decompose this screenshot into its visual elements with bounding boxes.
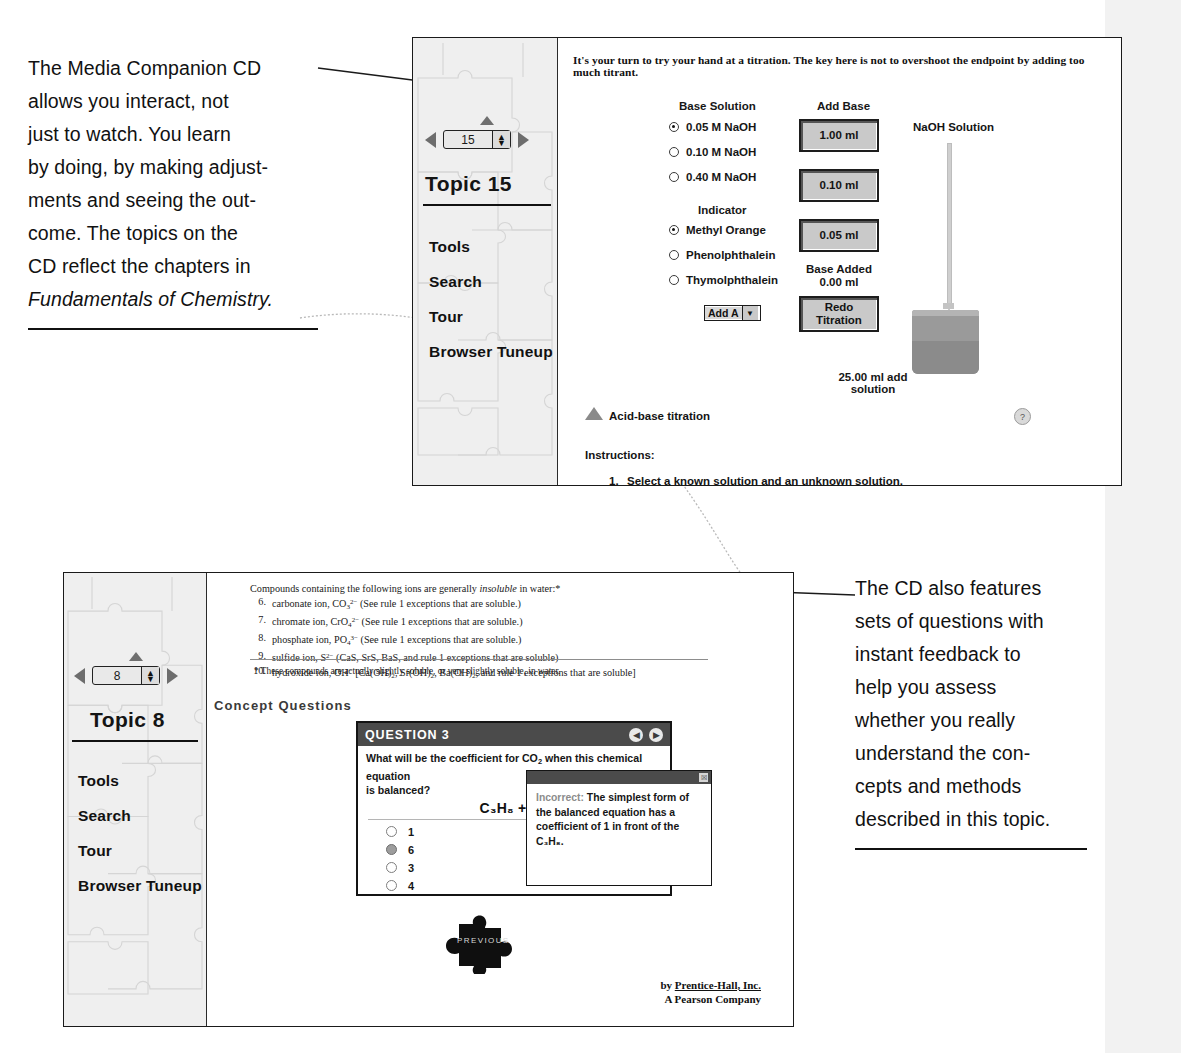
indicator-option-2[interactable]: Thymolphthalein <box>669 274 778 286</box>
solubility-lead: Compounds containing the following ions … <box>250 583 710 595</box>
anno-right-line-6: cepts and methods <box>855 770 1087 803</box>
radio-icon[interactable] <box>669 147 679 157</box>
instruction-1-number: 1. <box>609 475 619 487</box>
titration-app-window: 15 ▲▼ Topic 15 Tools Search Tour Browser… <box>412 37 1122 486</box>
top-sidebar: 15 ▲▼ Topic 15 Tools Search Tour Browser… <box>413 38 558 485</box>
anno-right-line-7: described in this topic. <box>855 803 1087 836</box>
chevron-down-icon[interactable]: ▼ <box>742 306 758 320</box>
feedback-result: Incorrect: <box>536 792 584 803</box>
top-topic-nav[interactable]: 15 ▲▼ <box>425 130 529 149</box>
item-number: 7. <box>250 614 266 631</box>
prev-topic-arrow-icon[interactable] <box>74 668 85 684</box>
top-topic-rule <box>423 204 551 206</box>
topic-spinner-value[interactable]: 15 <box>444 133 492 147</box>
radio-icon[interactable] <box>669 172 679 182</box>
list-item: 6.carbonate ion, CO32− (See rule 1 excep… <box>250 596 710 613</box>
topic-spinner[interactable]: 15 ▲▼ <box>443 130 511 149</box>
base-option-1[interactable]: 0.10 M NaOH <box>669 146 756 158</box>
topic-spinner-stepper-icon[interactable]: ▲▼ <box>141 667 159 684</box>
feedback-popup-titlebar: ☒ <box>527 771 711 784</box>
add-acid-dropdown[interactable]: Add A ▼ <box>704 305 761 321</box>
publisher-byline: by Prentice-Hall, Inc. A Pearson Company <box>660 978 761 1006</box>
question-nav[interactable]: ◀ ▶ <box>629 728 663 742</box>
close-icon[interactable]: ☒ <box>699 773 708 782</box>
triangle-up-icon[interactable] <box>129 652 143 661</box>
instruction-1-text: Select a known solution and an unknown s… <box>627 475 903 487</box>
byline-publisher[interactable]: Prentice-Hall, Inc. <box>675 979 761 991</box>
list-item: 8.phosphate ion, PO43− (See rule 1 excep… <box>250 632 710 649</box>
prev-question-icon[interactable]: ◀ <box>629 728 643 742</box>
item-number: 8. <box>250 632 266 649</box>
sidebar-item-browser-tuneup[interactable]: Browser Tuneup <box>429 343 553 361</box>
bottom-topic-nav[interactable]: 8 ▲▼ <box>74 666 178 685</box>
redo-titration-button[interactable]: Redo Titration <box>799 296 879 332</box>
redo-titration-line2: Titration <box>816 314 862 327</box>
base-option-1-label: 0.10 M NaOH <box>686 146 756 158</box>
beaker-icon <box>912 310 979 374</box>
anno-left-line-5: come. The topics on the <box>28 217 318 250</box>
add-base-1ml-button[interactable]: 1.00 ml <box>799 119 879 152</box>
sidebar-item-search[interactable]: Search <box>429 273 482 291</box>
solubility-lead-b: in water:* <box>517 583 561 594</box>
sidebar-item-tools[interactable]: Tools <box>78 772 119 790</box>
feedback-popup: ☒ Incorrect: The simplest form of the ba… <box>526 770 712 886</box>
radio-icon[interactable] <box>669 275 679 285</box>
anno-left-line-1: allows you interact, not <box>28 85 318 118</box>
add-base-005ml-button[interactable]: 0.05 ml <box>799 219 879 252</box>
radio-icon[interactable] <box>386 826 397 837</box>
sidebar-item-tools[interactable]: Tools <box>429 238 470 256</box>
base-option-0[interactable]: 0.05 M NaOH <box>669 121 756 133</box>
base-option-2[interactable]: 0.40 M NaOH <box>669 171 756 183</box>
previous-puzzle-button[interactable]: PREVIOUS <box>441 910 523 974</box>
triangle-up-icon[interactable] <box>480 116 494 125</box>
item-number: 9. <box>250 650 266 665</box>
topic-spinner-stepper-icon[interactable]: ▲▼ <box>492 131 510 148</box>
solubility-footnote: * These compounds are actually slightly … <box>254 666 714 676</box>
anno-right-line-1: sets of questions with <box>855 605 1087 638</box>
radio-icon[interactable] <box>386 862 397 873</box>
sidebar-item-tour[interactable]: Tour <box>429 308 463 326</box>
list-item: 9.sulfide ion, S2− (CaS, SrS, BaS, and r… <box>250 650 710 665</box>
anno-left-line-6: CD reflect the chapters in <box>28 250 318 283</box>
indicator-option-1[interactable]: Phenolphthalein <box>669 249 775 261</box>
byline-company: A Pearson Company <box>660 992 761 1006</box>
top-topic-title: Topic 15 <box>425 172 512 196</box>
radio-icon[interactable] <box>669 250 679 260</box>
topic-spinner[interactable]: 8 ▲▼ <box>92 666 160 685</box>
annotation-right: The CD also features sets of questions w… <box>855 572 1087 850</box>
anno-left-line-2: just to watch. You learn <box>28 118 318 151</box>
base-added-label: Base Added <box>799 263 879 276</box>
indicator-heading: Indicator <box>698 204 747 216</box>
concept-questions-app-window: 8 ▲▼ Topic 8 Tools Search Tour Browser T… <box>63 572 794 1027</box>
radio-icon[interactable] <box>386 844 397 855</box>
add-base-heading: Add Base <box>817 100 870 112</box>
anno-left-book-title: Fundamentals of Chemistry. <box>28 283 318 316</box>
prev-topic-arrow-icon[interactable] <box>425 132 436 148</box>
radio-icon[interactable] <box>669 225 679 235</box>
answer-option-3-label: 4 <box>408 880 414 892</box>
question-number-label: QUESTION 3 <box>365 728 450 742</box>
anno-right-rule <box>855 848 1087 850</box>
anno-right-line-5: understand the con- <box>855 737 1087 770</box>
next-topic-arrow-icon[interactable] <box>518 132 529 148</box>
solubility-lead-a: Compounds containing the following ions … <box>250 583 479 594</box>
topic-spinner-value[interactable]: 8 <box>93 669 141 683</box>
add-base-010ml-button[interactable]: 0.10 ml <box>799 169 879 202</box>
item-text: phosphate ion, PO43− (See rule 1 excepti… <box>272 632 521 649</box>
anno-left-line-0: The Media Companion CD <box>28 52 318 85</box>
radio-icon[interactable] <box>669 122 679 132</box>
indicator-option-0[interactable]: Methyl Orange <box>669 224 766 236</box>
titration-intro-text: It's your turn to try your hand at a tit… <box>573 54 1103 78</box>
sidebar-item-tour[interactable]: Tour <box>78 842 112 860</box>
question-header-bar: QUESTION 3 ◀ ▶ <box>358 723 670 746</box>
next-topic-arrow-icon[interactable] <box>167 668 178 684</box>
radio-icon[interactable] <box>386 880 397 891</box>
beaker-liquid <box>912 341 979 374</box>
help-icon[interactable]: ? <box>1014 408 1031 425</box>
bottom-topic-rule <box>72 740 198 742</box>
bottom-topic-title: Topic 8 <box>90 708 165 732</box>
sidebar-item-search[interactable]: Search <box>78 807 131 825</box>
item-text: chromate ion, CrO42− (See rule 1 excepti… <box>272 614 523 631</box>
next-question-icon[interactable]: ▶ <box>649 728 663 742</box>
sidebar-item-browser-tuneup[interactable]: Browser Tuneup <box>78 877 202 895</box>
